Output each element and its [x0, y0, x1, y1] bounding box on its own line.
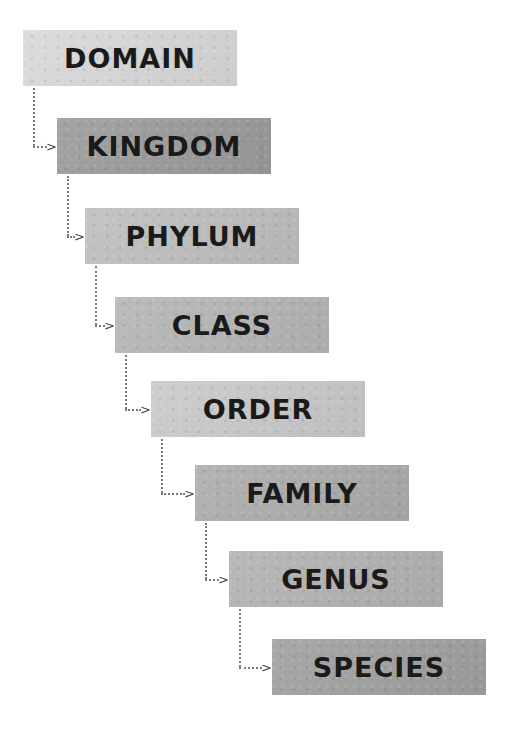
arrow-icon: >: [218, 573, 229, 586]
rank-label: PHYLUM: [126, 221, 259, 252]
arrow-icon: >: [104, 319, 115, 332]
connector-line: [95, 266, 97, 325]
box-shadow: [241, 517, 399, 543]
connector-line: [33, 88, 35, 146]
arrow-icon: >: [74, 230, 85, 243]
connector-line: [205, 579, 219, 581]
box-shadow: [131, 260, 289, 286]
connector-line: [125, 355, 127, 409]
rank-box-order: ORDER: [151, 381, 365, 437]
connector-line: [239, 667, 262, 669]
arrow-icon: >: [261, 661, 272, 674]
rank-box-species: SPECIES: [272, 639, 486, 695]
box-shadow: [103, 170, 261, 196]
box-shadow: [275, 603, 433, 629]
connector-line: [33, 146, 47, 148]
connector-line: [205, 523, 207, 579]
rank-box-phylum: PHYLUM: [85, 208, 299, 264]
box-shadow: [318, 691, 476, 717]
connector-line: [161, 493, 185, 495]
rank-label: GENUS: [281, 564, 391, 595]
rank-box-class: CLASS: [115, 297, 329, 353]
connector-line: [239, 609, 241, 667]
rank-label: CLASS: [172, 310, 273, 341]
connector-line: [67, 176, 69, 236]
rank-box-family: FAMILY: [195, 465, 409, 521]
box-shadow: [69, 82, 227, 108]
rank-label: DOMAIN: [64, 43, 196, 74]
rank-label: ORDER: [203, 394, 313, 425]
rank-box-domain: DOMAIN: [23, 30, 237, 86]
box-shadow: [197, 433, 355, 459]
arrow-icon: >: [140, 403, 151, 416]
rank-label: FAMILY: [246, 478, 358, 509]
box-shadow: [161, 349, 319, 375]
connector-line: [125, 409, 141, 411]
rank-label: SPECIES: [313, 652, 445, 683]
rank-box-genus: GENUS: [229, 551, 443, 607]
connector-line: [161, 439, 163, 493]
rank-box-kingdom: KINGDOM: [57, 118, 271, 174]
rank-label: KINGDOM: [87, 131, 242, 162]
arrow-icon: >: [184, 487, 195, 500]
arrow-icon: >: [46, 140, 57, 153]
